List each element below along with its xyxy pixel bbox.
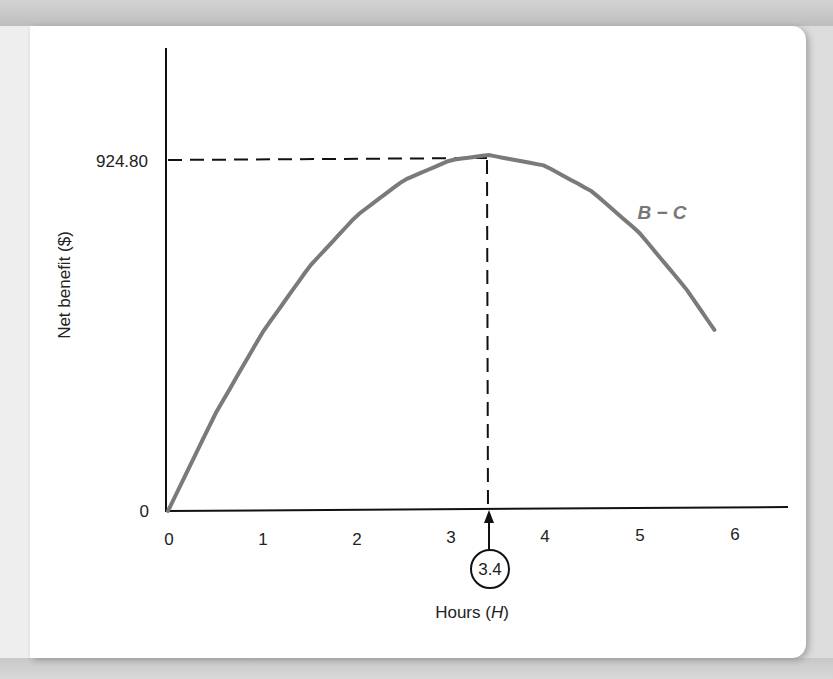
x-tick-6: 6 [730, 525, 739, 544]
net-benefit-curve [168, 155, 714, 511]
arrow-up-icon [484, 510, 494, 523]
curve-label: B − C [637, 202, 686, 223]
x-tick-4: 4 [540, 527, 549, 546]
x-axis [166, 507, 788, 511]
y-tick-zero: 0 [140, 502, 149, 521]
peak-vertical-guide [487, 160, 488, 508]
y-tick-peak: 924.80 [96, 152, 148, 171]
x-tick-3: 3 [446, 528, 455, 547]
y-axis-title: Net benefit ($) [55, 231, 74, 339]
x-tick-0: 0 [164, 530, 173, 549]
peak-horizontal-guide [168, 158, 487, 160]
x-tick-2: 2 [352, 530, 361, 549]
x-tick-1: 1 [258, 530, 267, 549]
marker-value: 3.4 [478, 560, 502, 579]
x-tick-5: 5 [635, 526, 644, 545]
x-axis-title: Hours (H) [435, 603, 509, 622]
net-benefit-chart: 924.80 0 0 1 2 3 4 5 6 3.4 Hours (H) Net… [0, 0, 833, 679]
